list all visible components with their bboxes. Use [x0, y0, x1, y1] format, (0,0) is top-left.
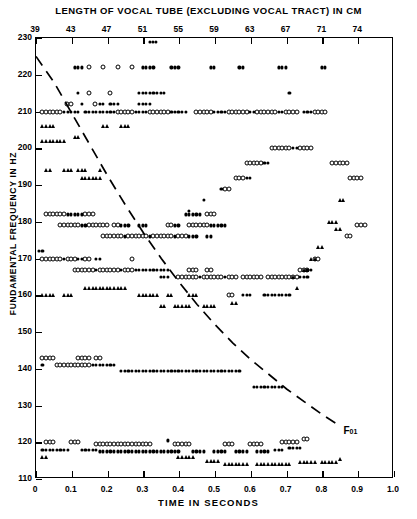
data-point-open-circle	[129, 256, 134, 261]
data-point-filled-dot	[209, 235, 212, 238]
data-point-open-circle	[226, 186, 231, 191]
y-tick-label: 210	[9, 106, 32, 115]
x-tick-top	[251, 38, 252, 44]
x-tick-label-top: 59	[209, 25, 218, 34]
data-point-open-circle	[51, 440, 56, 445]
x-tick-top	[358, 38, 359, 44]
data-point-open-circle	[97, 355, 102, 360]
data-point-open-circle	[76, 440, 81, 445]
data-point-triangle	[51, 124, 55, 128]
data-point-open-circle	[93, 102, 98, 107]
data-point-triangle	[334, 460, 338, 464]
data-point-filled-dot	[306, 275, 309, 278]
data-point-open-circle	[362, 223, 367, 228]
data-point-filled-dot	[281, 448, 284, 451]
data-point-triangle	[287, 462, 291, 466]
y-tick-label: 230	[9, 33, 32, 42]
y-tick-label: 140	[9, 364, 32, 373]
x-tick-label-bottom: 0.4	[172, 485, 184, 494]
x-tick-top	[72, 38, 73, 44]
data-point-open-circle	[258, 274, 263, 279]
data-point-open-circle	[69, 102, 74, 107]
x-tick-bottom	[322, 471, 323, 477]
f01-curve-label: F01	[344, 426, 358, 436]
x-tick-label-top: 63	[245, 25, 254, 34]
data-point-triangle	[44, 455, 48, 459]
data-point-triangle	[216, 459, 220, 463]
data-point-filled-dot	[223, 224, 226, 227]
data-point-open-circle	[294, 109, 299, 114]
data-point-triangle	[191, 455, 195, 459]
data-point-triangle	[98, 176, 102, 180]
data-point-filled-dot	[177, 224, 180, 227]
y-tick	[36, 185, 42, 186]
data-point-open-circle	[305, 436, 310, 441]
data-point-filled-dot	[66, 448, 69, 451]
x-tick-label-bottom: 0.1	[65, 485, 77, 494]
x-tick-label-top: 55	[173, 25, 182, 34]
x-tick-top	[287, 38, 288, 44]
data-point-triangle	[320, 245, 324, 249]
data-point-filled-dot	[245, 450, 248, 453]
x-tick-top	[179, 38, 180, 44]
data-point-filled-dot	[112, 363, 115, 366]
data-point-triangle	[126, 124, 130, 128]
data-point-filled-dot	[213, 66, 216, 69]
data-point-filled-dot	[266, 450, 269, 453]
data-point-filled-dot	[166, 439, 169, 442]
y-tick-label: 190	[9, 180, 32, 189]
x-tick-label-top: 67	[281, 25, 290, 34]
y-tick	[36, 332, 42, 333]
y-tick-label: 200	[9, 143, 32, 152]
data-point-triangle	[48, 168, 52, 172]
data-point-open-circle	[230, 293, 235, 298]
x-tick-label-bottom: 0.5	[208, 485, 220, 494]
data-point-filled-dot	[166, 268, 169, 271]
y-tick	[36, 406, 42, 407]
data-point-filled-dot	[299, 446, 302, 449]
data-point-triangle	[162, 304, 166, 308]
x-tick-bottom	[143, 471, 144, 477]
y-tick	[36, 148, 42, 149]
y-tick	[36, 38, 42, 39]
data-point-filled-dot	[177, 66, 180, 69]
data-point-filled-dot	[127, 224, 130, 227]
figure-container: LENGTH OF VOCAL TUBE (EXCLUDING VOCAL TR…	[0, 0, 417, 519]
data-point-open-circle	[359, 175, 364, 180]
data-point-filled-dot	[163, 92, 166, 95]
data-point-filled-dot	[116, 103, 119, 106]
data-point-filled-dot	[288, 294, 291, 297]
data-point-triangle	[155, 293, 159, 297]
data-point-filled-dot	[202, 198, 205, 201]
data-point-filled-dot	[98, 257, 101, 260]
x-tick-bottom	[179, 471, 180, 477]
data-point-triangle	[105, 124, 109, 128]
data-point-filled-dot	[241, 66, 244, 69]
y-tick-label: 180	[9, 217, 32, 226]
data-point-triangle	[69, 168, 73, 172]
x-tick-bottom	[287, 471, 288, 477]
data-point-triangle	[291, 275, 295, 279]
data-point-open-circle	[187, 442, 192, 447]
y-tick-label: 130	[9, 400, 32, 409]
data-point-open-circle	[230, 442, 235, 447]
x-tick-bottom	[394, 471, 395, 477]
x-tick-bottom	[358, 471, 359, 477]
data-point-open-circle	[86, 91, 91, 96]
data-point-open-circle	[194, 267, 199, 272]
x-tick-top	[322, 38, 323, 44]
data-point-filled-dot	[309, 268, 312, 271]
y-tick	[36, 479, 42, 480]
x-tick-bottom	[36, 471, 37, 477]
data-point-filled-dot	[195, 235, 198, 238]
data-point-triangle	[245, 462, 249, 466]
x-tick-label-top: 47	[102, 25, 111, 34]
data-point-filled-dot	[223, 450, 226, 453]
data-point-triangle	[76, 135, 80, 139]
x-tick-bottom	[72, 471, 73, 477]
data-point-triangle	[234, 301, 238, 305]
data-point-triangle	[295, 286, 299, 290]
data-point-open-circle	[115, 65, 120, 70]
y-tick-label: 120	[9, 437, 32, 446]
data-point-triangle	[123, 286, 127, 290]
